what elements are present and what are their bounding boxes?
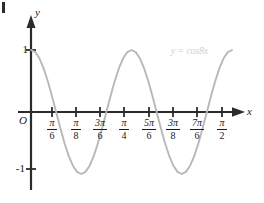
x-tick-label-7: π2 — [209, 117, 235, 141]
x-tick-label-3: π4 — [111, 117, 137, 141]
x-axis-label: x — [247, 105, 252, 117]
fraction: π4 — [119, 117, 128, 141]
fraction-denominator: 6 — [93, 130, 107, 142]
fraction-denominator: 6 — [142, 130, 156, 142]
fraction-numerator: π — [119, 117, 128, 130]
plot-canvas — [0, 0, 264, 203]
x-tick-label-1: π8 — [63, 117, 89, 141]
fraction: π2 — [217, 117, 226, 141]
fraction-denominator: 8 — [166, 130, 180, 142]
fraction: 3π6 — [93, 117, 107, 141]
x-tick-label-5: 3π8 — [160, 117, 186, 141]
fraction-numerator: 3π — [93, 117, 107, 130]
fraction-numerator: π — [217, 117, 226, 130]
x-tick-label-4: 5π6 — [136, 117, 162, 141]
fraction-numerator: π — [71, 117, 80, 130]
origin-label: O — [19, 114, 27, 126]
fraction: 7π6 — [190, 117, 204, 141]
fraction-denominator: 6 — [190, 130, 204, 142]
fraction-denominator: 4 — [119, 130, 128, 142]
fraction-denominator: 8 — [71, 130, 80, 142]
fraction: 5π6 — [142, 117, 156, 141]
fraction-numerator: 5π — [142, 117, 156, 130]
fraction: 3π8 — [166, 117, 180, 141]
x-axis-arrowhead — [232, 107, 245, 117]
fraction-denominator: 6 — [47, 130, 56, 142]
fraction-numerator: 7π — [190, 117, 204, 130]
fraction: π6 — [47, 117, 56, 141]
fraction: π8 — [71, 117, 80, 141]
curve-equation-annotation: y = cos8x — [171, 46, 208, 56]
cosine-graph-figure: y x O 1 -1 π6π83π6π45π63π87π6π2 y = cos8… — [0, 0, 264, 203]
fraction-numerator: 3π — [166, 117, 180, 130]
y-axis-label: y — [35, 6, 40, 18]
fraction-denominator: 2 — [217, 130, 226, 142]
x-tick-label-2: 3π6 — [87, 117, 113, 141]
x-tick-label-6: 7π6 — [184, 117, 210, 141]
fraction-numerator: π — [47, 117, 56, 130]
y-tick-label-1: 1 — [8, 43, 28, 55]
x-tick-label-0: π6 — [39, 117, 65, 141]
y-tick-label-neg1: -1 — [5, 162, 25, 174]
